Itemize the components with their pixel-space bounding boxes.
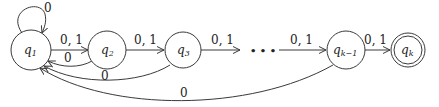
edge-label-qk1-qk: 0, 1 [364,33,387,47]
state-q3: q3 [165,32,201,68]
edge-label-q3-ellipsis: 0, 1 [211,33,234,47]
edge-q1-self [18,7,46,33]
ellipsis: • • • [250,45,276,56]
edge-label-qk1-q1: 0 [180,86,188,100]
automaton-diagram: 0 0, 1 0, 1 0, 1 • • • 0, 1 0, 1 0 0 0 q… [0,0,439,107]
edge-label-q2-q3: 0, 1 [134,33,157,47]
state-qk-accepting: qk [391,33,425,67]
edge-label-q2-q1: 0 [64,51,72,65]
state-q2: q2 [88,31,126,69]
edge-label-q1-self: 0 [44,1,52,15]
edge-label-q1-q2: 0, 1 [60,33,83,47]
state-q1: q1 [11,30,51,70]
state-qk-minus-1: qk−1 [327,31,365,69]
edge-label-ellipsis-qk1: 0, 1 [290,33,313,47]
edge-label-q3-q1: 0 [101,69,109,83]
